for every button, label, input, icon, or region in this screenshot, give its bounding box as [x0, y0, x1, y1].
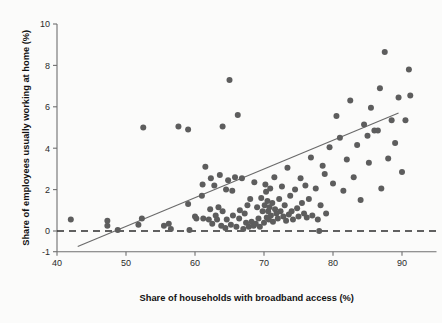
- data-point: [279, 184, 285, 190]
- data-point: [185, 201, 191, 207]
- data-point: [278, 208, 284, 214]
- data-point: [290, 217, 296, 223]
- data-point: [200, 216, 206, 222]
- y-tick-label: 0: [45, 226, 50, 236]
- data-point: [260, 208, 266, 214]
- data-point: [240, 226, 246, 232]
- data-point: [318, 202, 324, 208]
- data-point: [139, 216, 145, 222]
- data-point: [199, 193, 205, 199]
- data-point: [282, 202, 288, 208]
- data-point: [262, 181, 268, 187]
- x-axis-title: Share of households with broadband acces…: [140, 293, 354, 303]
- data-point: [365, 133, 371, 139]
- data-point: [315, 217, 321, 223]
- data-point: [382, 49, 388, 55]
- data-point: [316, 228, 322, 234]
- data-point: [313, 186, 319, 192]
- data-point: [207, 206, 213, 212]
- data-point: [267, 186, 273, 192]
- x-tick-label: 50: [121, 258, 131, 268]
- data-point: [309, 212, 315, 218]
- data-point: [333, 113, 339, 119]
- data-point: [230, 212, 236, 218]
- data-point: [406, 67, 412, 73]
- data-point: [239, 175, 245, 181]
- data-point: [354, 142, 360, 148]
- y-tick-label: 2: [45, 185, 50, 195]
- x-tick-label: 90: [397, 258, 407, 268]
- data-point: [228, 222, 234, 228]
- data-point: [402, 117, 408, 123]
- data-point: [229, 188, 235, 194]
- y-axis-title: Share of employees usually working at ho…: [21, 30, 31, 246]
- data-point: [378, 186, 384, 192]
- data-point: [140, 125, 146, 131]
- data-point: [175, 123, 181, 129]
- data-point: [185, 127, 191, 133]
- x-tick-label: 40: [52, 258, 62, 268]
- data-point: [292, 187, 298, 193]
- data-point: [358, 197, 364, 203]
- data-point: [276, 196, 282, 202]
- data-point: [308, 155, 314, 161]
- data-point: [302, 182, 308, 188]
- data-point: [361, 121, 367, 127]
- data-point: [211, 182, 217, 188]
- data-point: [299, 200, 305, 206]
- data-point: [255, 216, 261, 222]
- data-point: [193, 216, 199, 222]
- y-tick-label: 10: [40, 19, 50, 29]
- data-point: [306, 196, 312, 202]
- y-tick-label: -1: [42, 247, 50, 257]
- data-point: [284, 165, 290, 171]
- data-point: [366, 160, 372, 166]
- data-point: [268, 212, 274, 218]
- data-point: [368, 105, 374, 111]
- data-point: [251, 179, 257, 185]
- data-point: [115, 227, 121, 233]
- data-point: [347, 98, 353, 104]
- data-point: [296, 214, 302, 220]
- data-point: [269, 200, 275, 206]
- data-point: [254, 204, 260, 210]
- data-point: [389, 117, 395, 123]
- data-point: [294, 205, 300, 211]
- chart-figure: -10246810405060708090Share of households…: [0, 0, 442, 323]
- data-point: [236, 216, 242, 222]
- data-point: [271, 174, 277, 180]
- data-point: [222, 225, 228, 231]
- data-point: [247, 196, 253, 202]
- data-point: [327, 144, 333, 150]
- scatter-plot: -10246810405060708090Share of households…: [0, 0, 442, 323]
- data-point: [375, 128, 381, 134]
- x-tick-label: 60: [190, 258, 200, 268]
- x-tick-label: 80: [328, 258, 338, 268]
- y-tick-label: 8: [45, 61, 50, 71]
- data-point: [68, 217, 74, 223]
- data-point: [214, 217, 220, 223]
- data-point: [104, 223, 110, 229]
- data-point: [320, 163, 326, 169]
- data-point: [344, 157, 350, 163]
- data-point: [407, 92, 413, 98]
- data-point: [377, 85, 383, 91]
- data-point: [217, 172, 223, 178]
- data-point: [322, 171, 328, 177]
- data-point: [275, 216, 281, 222]
- data-point: [287, 193, 293, 199]
- data-point: [135, 222, 141, 228]
- data-point: [340, 188, 346, 194]
- data-point: [337, 135, 343, 141]
- data-point: [220, 208, 226, 214]
- data-point: [200, 181, 206, 187]
- data-point: [223, 187, 229, 193]
- data-points: [68, 49, 413, 234]
- data-point: [202, 164, 208, 170]
- data-point: [233, 224, 239, 230]
- data-point: [208, 175, 214, 181]
- data-point: [220, 123, 226, 129]
- data-point: [304, 215, 310, 221]
- data-point: [298, 175, 304, 181]
- data-point: [232, 174, 238, 180]
